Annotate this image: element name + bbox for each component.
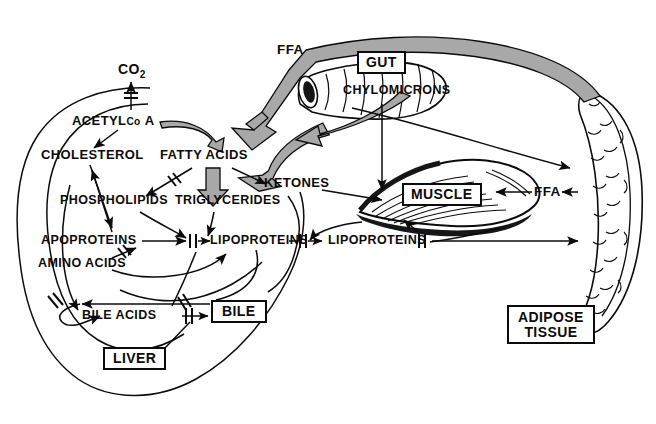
- organ-box-adipose-tissue[interactable]: ADIPOSE TISSUE: [507, 305, 595, 344]
- diagram-canvas: [0, 0, 656, 424]
- label-chylomicrons: CHYLOMICRONS: [343, 84, 451, 97]
- label-ffa-muscle: FFA: [534, 185, 561, 199]
- label-co2: CO2: [118, 62, 145, 80]
- organ-box-liver[interactable]: LIVER: [103, 347, 166, 370]
- adipose-line-2: TISSUE: [518, 325, 584, 340]
- label-apoproteins: APOPROTEINS: [41, 234, 136, 247]
- organ-box-gut[interactable]: GUT: [357, 51, 406, 74]
- label-lipoproteins-plasma: LIPOPROTEINS: [328, 234, 426, 247]
- label-bile-acids: BILE ACIDS: [82, 309, 156, 322]
- label-amino-acids: AMINO ACIDS: [38, 257, 126, 270]
- adipose-line-1: ADIPOSE: [518, 310, 584, 325]
- label-cholesterol: CHOLESTEROL: [41, 148, 144, 161]
- label-fatty-acids: FATTY ACIDS: [160, 148, 248, 161]
- label-ketones: KETONES: [264, 176, 329, 189]
- label-phospholipids: PHOSPHOLIPIDS: [60, 194, 168, 207]
- organ-box-bile[interactable]: BILE: [211, 300, 267, 323]
- label-ffa-top: FFA: [277, 43, 304, 57]
- organ-box-muscle[interactable]: MUSCLE: [402, 183, 482, 206]
- label-triglycerides: TRIGLYCERIDES: [175, 194, 280, 207]
- label-lipoproteins-liver: LIPOPROTEINS: [210, 234, 308, 247]
- label-acetyl-coa: ACETYLCo A: [72, 114, 155, 127]
- pathway-diagram: CO2 ACETYLCo A CHOLESTEROL FATTY ACIDS P…: [0, 0, 656, 424]
- adipose-organ-shape: [574, 91, 642, 334]
